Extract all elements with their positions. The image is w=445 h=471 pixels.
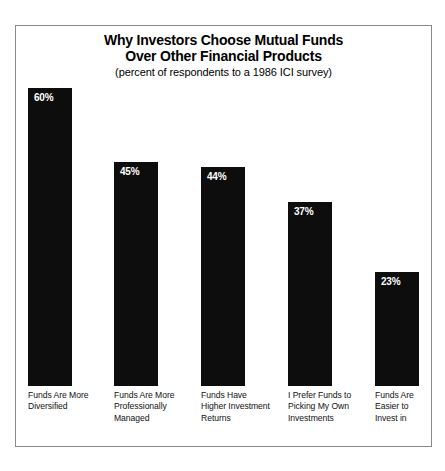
category-label-4-line-1: Easier to	[375, 401, 445, 412]
category-label-1-line-1: Professionally	[114, 401, 190, 412]
category-label-0: Funds Are More Diversified	[28, 390, 104, 413]
bar-value-2: 44%	[207, 171, 226, 182]
category-label-1: Funds Are More Professionally Managed	[114, 390, 190, 424]
category-label-4-line-2: Invest in	[375, 413, 445, 424]
category-label-4: Funds Are Easier to Invest in	[375, 390, 445, 424]
bar-value-3: 37%	[294, 206, 313, 217]
category-label-0-line-1: Diversified	[28, 401, 104, 412]
category-label-2-line-2: Returns	[201, 413, 277, 424]
category-label-3-line-2: Investments	[288, 413, 364, 424]
category-label-0-line-0: Funds Are More	[28, 390, 104, 401]
category-label-2-line-1: Higher Investment	[201, 401, 277, 412]
chart-frame: Why Investors Choose Mutual Funds Over O…	[15, 25, 432, 447]
bar-3: 37%	[288, 202, 332, 386]
category-label-2: Funds Have Higher Investment Returns	[201, 390, 277, 424]
bar-0: 60%	[28, 88, 72, 386]
category-label-1-line-2: Managed	[114, 413, 190, 424]
chart-plot-area: 60% Funds Are More Diversified 45% Funds…	[16, 26, 431, 446]
category-label-1-line-0: Funds Are More	[114, 390, 190, 401]
bar-4: 23%	[375, 272, 419, 386]
category-label-2-line-0: Funds Have	[201, 390, 277, 401]
bar-1: 45%	[114, 162, 158, 386]
bar-value-0: 60%	[34, 92, 53, 103]
category-label-3-line-1: Picking My Own	[288, 401, 364, 412]
category-label-4-line-0: Funds Are	[375, 390, 445, 401]
bar-2: 44%	[201, 167, 245, 386]
category-label-3-line-0: I Prefer Funds to	[288, 390, 364, 401]
bar-value-4: 23%	[381, 276, 400, 287]
category-label-3: I Prefer Funds to Picking My Own Investm…	[288, 390, 364, 424]
bar-value-1: 45%	[120, 166, 139, 177]
